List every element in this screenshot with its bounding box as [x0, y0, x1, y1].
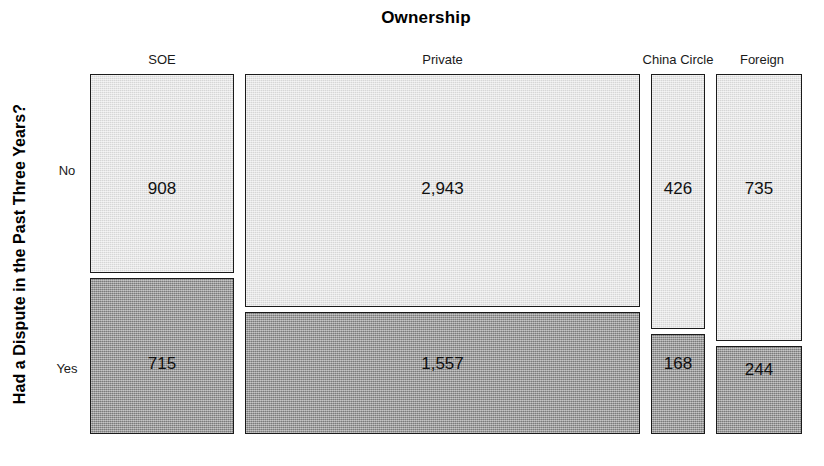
tile-value-foreign-yes: 244 [717, 360, 801, 380]
tile-china-circle-yes[interactable]: 168 [651, 334, 705, 434]
column-label-foreign: Foreign [718, 52, 806, 67]
tile-soe-yes[interactable]: 715 [90, 278, 234, 434]
column-label-private: Private [245, 52, 640, 67]
tile-value-soe-no: 908 [91, 179, 233, 199]
column-label-soe: SOE [90, 52, 234, 67]
mosaic-plot: Ownership Had a Dispute in the Past Thre… [0, 0, 824, 466]
tile-foreign-yes[interactable]: 244 [716, 346, 802, 434]
y-axis-title: Had a Dispute in the Past Three Years? [11, 49, 29, 459]
column-label-china-circle: China Circle [628, 52, 728, 67]
tile-value-china-circle-no: 426 [652, 179, 704, 199]
row-label-yes: Yes [46, 361, 88, 376]
tile-soe-no[interactable]: 908 [90, 74, 234, 273]
chart-title-text: Ownership [381, 8, 471, 28]
tile-foreign-no[interactable]: 735 [716, 74, 802, 341]
tile-value-private-yes: 1,557 [246, 354, 639, 374]
chart-title: Ownership [0, 8, 824, 28]
tile-value-foreign-no: 735 [717, 179, 801, 199]
row-label-no: No [46, 163, 88, 178]
tile-value-private-no: 2,943 [246, 179, 639, 199]
tile-china-circle-no[interactable]: 426 [651, 74, 705, 329]
tile-value-china-circle-yes: 168 [652, 354, 704, 374]
tile-private-no[interactable]: 2,943 [245, 74, 640, 307]
tile-value-soe-yes: 715 [91, 354, 233, 374]
tile-private-yes[interactable]: 1,557 [245, 312, 640, 434]
